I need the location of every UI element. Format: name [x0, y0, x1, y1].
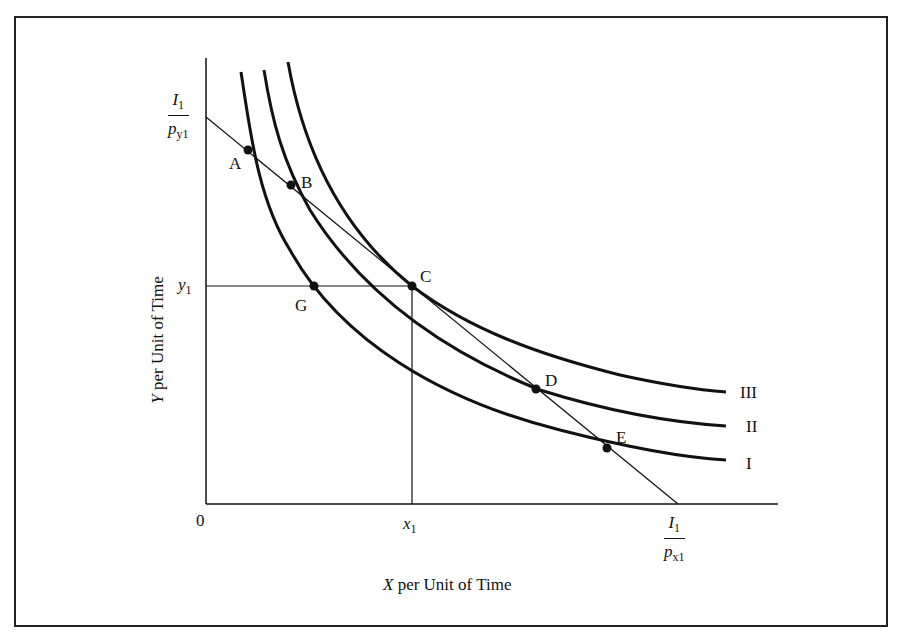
curve-label-I: I: [746, 455, 752, 472]
x-axis-title: X per Unit of Time: [383, 576, 511, 593]
y-intercept-label: I1 py1: [168, 90, 189, 142]
x-intercept-label: I1 px1: [664, 513, 685, 565]
point-C: [408, 282, 417, 291]
indifference-curve-I: [241, 72, 726, 460]
origin-label: 0: [196, 512, 205, 529]
point-label-A: A: [229, 155, 241, 172]
point-label-E: E: [616, 429, 626, 446]
point-E: [603, 444, 612, 453]
point-label-D: D: [545, 372, 557, 389]
point-label-B: B: [301, 174, 312, 191]
point-D: [532, 385, 541, 394]
x1-tick-label: x1: [403, 515, 417, 535]
indifference-chart: [0, 0, 906, 638]
curve-label-II: II: [746, 418, 757, 435]
point-G: [310, 282, 319, 291]
curve-label-III: III: [740, 384, 757, 401]
indifference-curve-III: [288, 62, 726, 392]
point-A: [244, 146, 253, 155]
point-label-C: C: [420, 268, 431, 285]
indifference-curve-II: [264, 70, 726, 426]
y1-tick-label: y1: [178, 276, 192, 296]
point-label-G: G: [295, 297, 307, 314]
point-B: [287, 181, 296, 190]
y-axis-title: Y per Unit of Time: [148, 276, 168, 404]
